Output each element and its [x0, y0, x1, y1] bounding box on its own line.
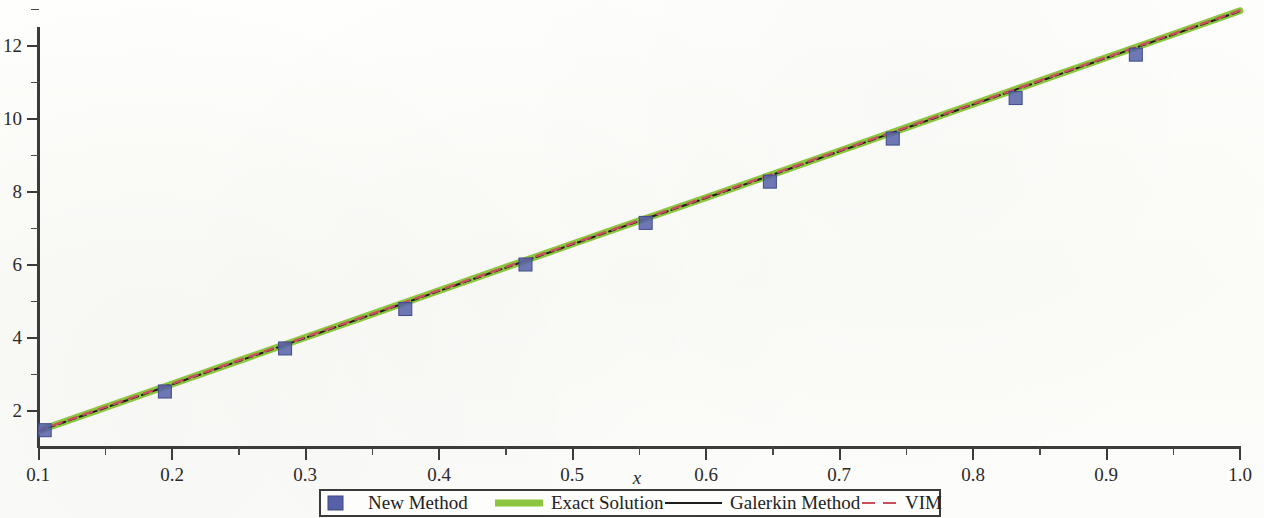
data-marker [399, 303, 412, 316]
data-marker [763, 175, 776, 188]
x-label-0.7: 0.7 [827, 464, 851, 485]
y-axis-labels: 12 10 8 6 4 2 [3, 35, 23, 421]
legend-label-galerkin-method: Galerkin Method [730, 492, 861, 513]
legend-label-vim: VIM [905, 492, 942, 513]
y-label-6: 6 [13, 254, 23, 275]
x-label-0.5: 0.5 [560, 464, 584, 485]
x-label-0.3: 0.3 [293, 464, 317, 485]
data-marker [279, 342, 292, 355]
y-label-8: 8 [13, 181, 23, 202]
y-label-12: 12 [3, 35, 22, 56]
x-label-0.8: 0.8 [961, 464, 985, 485]
x-axis-ticks [39, 447, 1241, 460]
x-label-0.2: 0.2 [160, 464, 184, 485]
x-label-1.0: 1.0 [1228, 464, 1252, 485]
x-label-0.1: 0.1 [26, 464, 50, 485]
x-label-0.9: 0.9 [1094, 464, 1118, 485]
y-label-10: 10 [3, 108, 22, 129]
y-label-2: 2 [13, 400, 23, 421]
axes-group [38, 27, 1241, 448]
chart-figure: 12 10 8 6 4 2 [0, 0, 1264, 518]
data-marker [519, 258, 532, 271]
data-marker [38, 424, 51, 437]
data-marker [886, 132, 899, 145]
data-marker [639, 216, 652, 229]
legend-label-exact-solution: Exact Solution [551, 492, 664, 513]
y-label-4: 4 [13, 327, 23, 348]
x-label-0.4: 0.4 [427, 464, 451, 485]
legend-label-new-method: New Method [368, 492, 468, 513]
line-chart: 12 10 8 6 4 2 [0, 0, 1264, 518]
legend: New Method Exact Solution Galerkin Metho… [320, 490, 942, 516]
data-marker [1009, 92, 1022, 105]
data-marker [158, 385, 171, 398]
y-axis-ticks [27, 10, 39, 411]
x-axis-title: x [632, 467, 642, 488]
data-marker [1129, 48, 1142, 61]
x-label-0.6: 0.6 [694, 464, 718, 485]
legend-swatch-new-method [328, 496, 343, 510]
